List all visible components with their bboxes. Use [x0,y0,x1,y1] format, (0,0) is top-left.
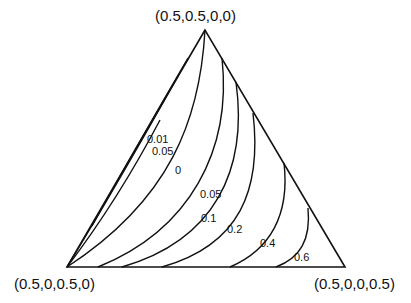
contour-0.05 [98,58,223,267]
contour-label-0: 0 [175,164,181,176]
vertex-label-top: (0.5,0.5,0,0) [155,7,236,24]
ternary-contour-diagram: 0.01 0.05 0 0.05 0.1 0.2 0.4 0.6 (0.5,0.… [0,0,411,303]
vertex-label-bottom-left: (0.5,0,0.5,0) [14,275,95,292]
contour-label-0.05-left: 0.05 [152,145,173,157]
ternary-triangle [67,30,345,267]
contour-label-0.01: 0.01 [147,133,168,145]
vertex-label-bottom-right: (0.5,0,0,0.5) [314,275,395,292]
contour-label-0.6: 0.6 [294,251,309,263]
contour-label-0.2: 0.2 [227,223,242,235]
contour-label-0.4: 0.4 [260,237,275,249]
contour-label-0.05: 0.05 [200,188,221,200]
contour-label-0.1: 0.1 [201,212,216,224]
